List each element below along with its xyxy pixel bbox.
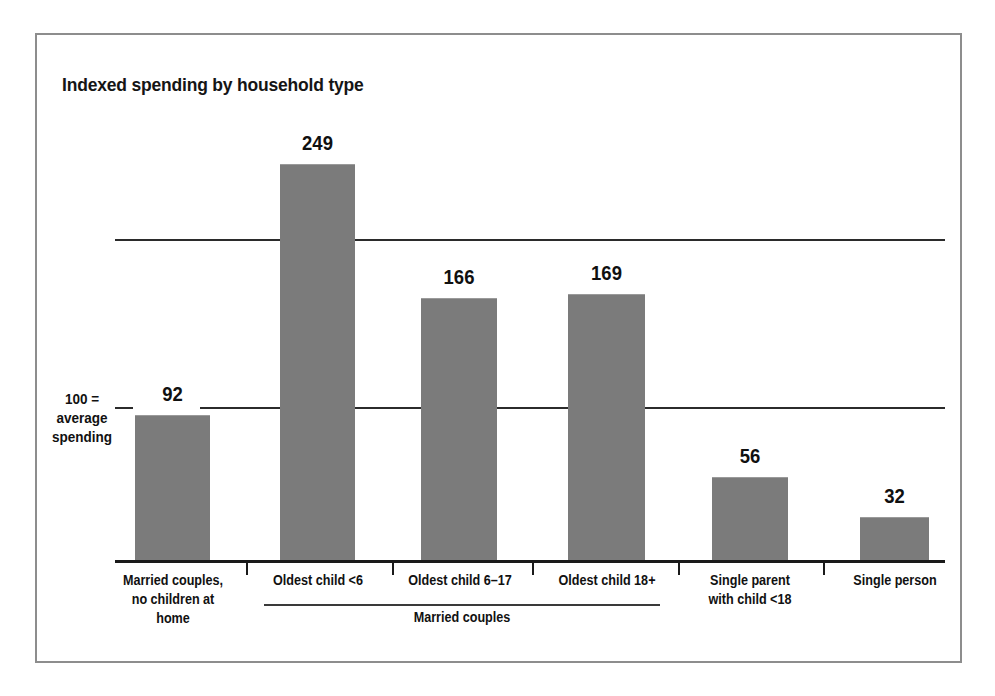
chart-title: Indexed spending by household type (62, 74, 364, 96)
bar-value-249: 249 (285, 131, 351, 155)
bar-value-56: 56 (717, 444, 784, 468)
axis-tick-2 (392, 562, 394, 575)
category-label-single-person: Single person (838, 571, 951, 590)
group-bracket-label: Married couples (284, 609, 640, 625)
category-label-married-no-children: Married couples, no children at home (116, 571, 229, 628)
bar-married-no-children (135, 415, 210, 562)
chart-figure: Indexed spending by household type 100 =… (0, 0, 995, 696)
bar-oldest-child-6-17 (421, 298, 497, 562)
gridline-100-left-dash (115, 407, 133, 409)
bar-oldest-child-under-6 (280, 164, 355, 562)
chart-plot-area: Indexed spending by household type 100 =… (0, 0, 995, 696)
baseline-reference-label: 100 = average spending (51, 389, 114, 446)
bar-value-169: 169 (573, 261, 641, 285)
x-axis-baseline (115, 560, 945, 563)
category-label-oldest-child-18-plus: Oldest child 18+ (549, 571, 664, 590)
bar-value-32: 32 (864, 484, 925, 508)
bar-single-parent (712, 477, 788, 562)
bar-value-166: 166 (426, 265, 493, 289)
axis-tick-4 (678, 562, 680, 575)
category-label-oldest-child-6-17: Oldest child 6–17 (402, 571, 517, 590)
category-label-single-parent: Single parent with child <18 (694, 571, 806, 609)
axis-tick-3 (532, 562, 534, 575)
category-label-oldest-child-under-6: Oldest child <6 (260, 571, 375, 590)
gridline-200 (115, 239, 945, 241)
group-bracket-line (264, 604, 660, 606)
axis-tick-1 (246, 562, 248, 575)
axis-tick-5 (823, 562, 825, 575)
bar-oldest-child-18-plus (568, 294, 645, 562)
bar-single-person (860, 517, 929, 562)
bar-value-92: 92 (140, 382, 206, 406)
